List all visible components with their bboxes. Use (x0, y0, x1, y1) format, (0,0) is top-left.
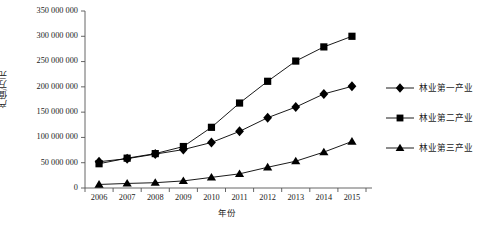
legend-item-1[interactable]: 林业第一产业 (385, 73, 495, 103)
x-axis-title: 年份 (205, 209, 249, 218)
legend-sample-svg (385, 141, 415, 155)
data-point-square (397, 115, 404, 122)
legend-item-3[interactable]: 林业第三产业 (385, 133, 495, 163)
x-tick-label: 2015 (335, 194, 369, 202)
legend-label: 林业第三产业 (415, 143, 473, 153)
legend-marker-square-icon (385, 111, 415, 125)
legend-sample-svg (385, 111, 415, 125)
data-point-triangle (396, 144, 405, 151)
chart-figure: 产值/万元 050 000 000100 000 000150 000 0002… (0, 0, 496, 235)
legend-label: 林业第二产业 (415, 113, 473, 123)
legend-marker-diamond-icon (385, 81, 415, 95)
chart-legend: 林业第一产业林业第二产业林业第三产业 (385, 73, 495, 163)
legend-item-2[interactable]: 林业第二产业 (385, 103, 495, 133)
data-point-diamond (396, 83, 404, 93)
legend-label: 林业第一产业 (415, 83, 473, 93)
legend-sample-svg (385, 81, 415, 95)
legend-marker-triangle-icon (385, 141, 415, 155)
